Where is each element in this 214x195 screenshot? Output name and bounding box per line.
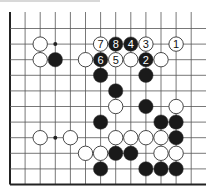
- move-number: 2: [143, 54, 149, 66]
- white-stone: [63, 131, 77, 145]
- move-number: 7: [98, 38, 104, 50]
- move-number: 3: [143, 38, 149, 50]
- white-stone-move-7: 7: [93, 37, 107, 51]
- black-stone: [124, 146, 138, 160]
- black-stone: [93, 68, 107, 82]
- white-stone: [124, 131, 138, 145]
- white-stone: [78, 146, 92, 160]
- white-stone: [33, 53, 47, 67]
- white-stone: [169, 146, 183, 160]
- white-stone: [109, 99, 123, 113]
- move-number: 8: [113, 38, 119, 50]
- white-stone: [154, 146, 168, 160]
- white-stone: [139, 131, 153, 145]
- go-board: 78431652: [0, 0, 214, 195]
- black-stone: [93, 162, 107, 176]
- white-stone: [78, 53, 92, 67]
- black-stone: [169, 162, 183, 176]
- black-stone: [139, 99, 153, 113]
- black-stone: [109, 146, 123, 160]
- white-stone: [33, 131, 47, 145]
- black-stone: [93, 115, 107, 129]
- black-stone-move-8: 8: [109, 37, 123, 51]
- white-stone: [124, 53, 138, 67]
- black-stone: [154, 115, 168, 129]
- black-stone-move-2: 2: [139, 53, 153, 67]
- white-stone: [154, 131, 168, 145]
- white-stone-move-1: 1: [169, 37, 183, 51]
- move-number: 4: [128, 38, 134, 50]
- black-stone: [109, 84, 123, 98]
- black-stone: [154, 162, 168, 176]
- white-stone: [169, 99, 183, 113]
- move-number: 5: [113, 54, 119, 66]
- black-stone: [169, 115, 183, 129]
- move-number: 1: [173, 38, 179, 50]
- white-stone: [154, 53, 168, 67]
- star-point: [53, 42, 57, 46]
- black-stone: [139, 162, 153, 176]
- black-stone-move-4: 4: [124, 37, 138, 51]
- black-stone: [48, 53, 62, 67]
- move-number: 6: [98, 54, 104, 66]
- white-stone: [109, 131, 123, 145]
- white-stone-move-3: 3: [139, 37, 153, 51]
- black-stone: [139, 68, 153, 82]
- star-point: [53, 136, 57, 140]
- black-stone: [169, 131, 183, 145]
- white-stone: [93, 146, 107, 160]
- black-stone-move-6: 6: [93, 53, 107, 67]
- white-stone: [33, 37, 47, 51]
- white-stone-move-5: 5: [109, 53, 123, 67]
